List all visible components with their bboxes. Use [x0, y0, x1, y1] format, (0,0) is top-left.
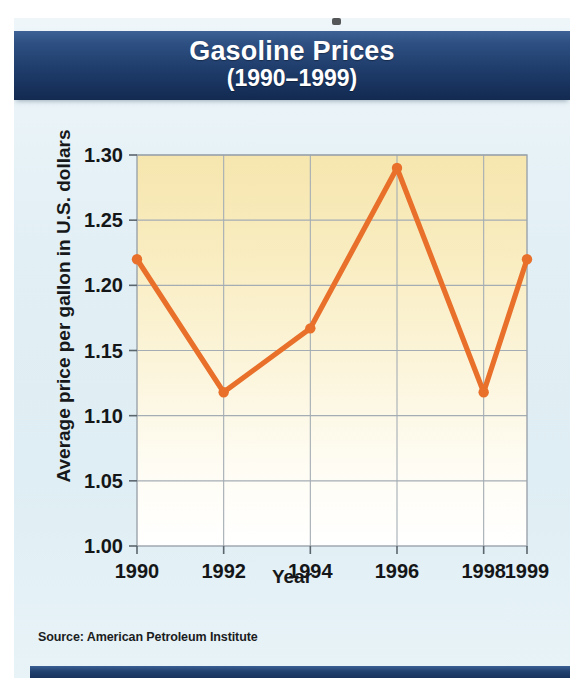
scan-artifact-speck — [332, 18, 341, 25]
svg-text:1.10: 1.10 — [84, 405, 123, 427]
chart-title-banner: Gasoline Prices (1990–1999) — [14, 31, 570, 100]
svg-text:1.25: 1.25 — [84, 209, 123, 231]
chart-plot-region: Average price per gallon in U.S. dollars — [14, 100, 570, 600]
svg-text:1.15: 1.15 — [84, 340, 123, 362]
chart-title: Gasoline Prices — [14, 31, 570, 65]
chart-figure: Gasoline Prices (1990–1999) Average pric… — [14, 18, 570, 678]
chart-subtitle: (1990–1999) — [14, 65, 570, 91]
source-note: Source: American Petroleum Institute — [38, 630, 258, 644]
x-axis-title: Year — [14, 566, 570, 588]
bottom-rule — [30, 666, 570, 678]
svg-text:1.30: 1.30 — [84, 144, 123, 166]
line-chart-svg: 1.001.051.101.151.201.251.30 19901992199… — [14, 100, 570, 600]
svg-text:1.05: 1.05 — [84, 470, 123, 492]
y-axis-tick-labels: 1.001.051.101.151.201.251.30 — [84, 144, 123, 557]
svg-text:1.00: 1.00 — [84, 535, 123, 557]
svg-text:1.20: 1.20 — [84, 274, 123, 296]
y-axis-ticks — [129, 155, 137, 546]
x-axis-ticks — [137, 546, 527, 554]
